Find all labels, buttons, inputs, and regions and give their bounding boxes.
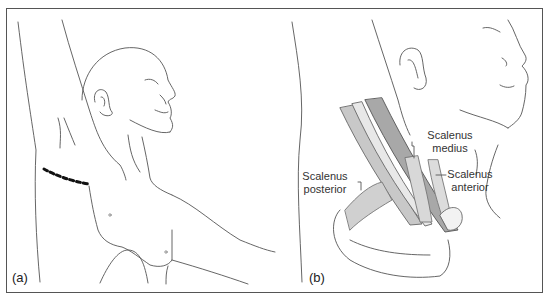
label-line-2: medius [420, 142, 480, 155]
label-scalenus-medius: Scalenus medius [420, 129, 480, 155]
scalene-muscles [340, 98, 462, 232]
panel-label-a: (a) [12, 270, 28, 285]
panel-label-b: (b) [309, 270, 325, 285]
panel-a-drawing [18, 20, 275, 284]
label-line-1: Scalenus [420, 129, 480, 142]
label-line-2: anterior [440, 181, 500, 194]
incision-line [44, 169, 89, 184]
label-line-1: Scalenus [440, 168, 500, 181]
label-line-1: Scalenus [296, 170, 354, 183]
label-scalenus-anterior: Scalenus anterior [440, 168, 500, 194]
label-scalenus-posterior: Scalenus posterior [296, 170, 354, 196]
label-line-2: posterior [296, 183, 354, 196]
